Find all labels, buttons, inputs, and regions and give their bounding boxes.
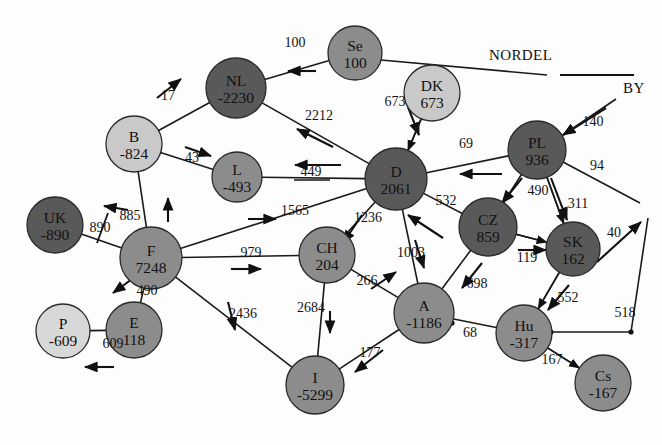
edge-pl-sk-value-label: 311 — [568, 196, 588, 211]
node-se-value: 100 — [343, 54, 367, 71]
edge-cz-sk-value-label: 119 — [517, 250, 537, 265]
node-a-label: A — [418, 297, 430, 314]
edge-pl-east-value-label: 94 — [590, 158, 604, 173]
edge-l-d-value-label: 449 — [301, 164, 322, 179]
edge-f-ch-value-label: 979 — [241, 245, 262, 260]
edge-a-hu-value-label: 68 — [463, 325, 477, 340]
node-a-value: -1186 — [406, 314, 442, 331]
node-d[interactable]: D2061 — [365, 148, 427, 210]
nodes-layer: Se100NL-2230DK673B-824PL936L-493D2061UK-… — [27, 26, 631, 414]
node-uk-value: -890 — [41, 226, 70, 243]
edge-se-nl-value-label: 100 — [285, 35, 306, 50]
node-cz-value: 859 — [476, 228, 500, 245]
node-l-value: -493 — [223, 178, 252, 195]
node-d-label: D — [390, 163, 401, 180]
edge-a-i-value-label: 177 — [360, 345, 381, 360]
edge-d-ch-value-label: 1236 — [354, 210, 382, 225]
edge-b-l-value-label: 43 — [185, 150, 199, 165]
node-nl[interactable]: NL-2230 — [206, 58, 266, 118]
by-label: BY — [623, 80, 645, 96]
edge-ch-a-value-label: 266 — [357, 273, 378, 288]
node-b-value: -824 — [120, 145, 149, 162]
diagram-canvas: Se100NL-2230DK673B-824PL936L-493D2061UK-… — [0, 0, 662, 445]
node-ch-value: 204 — [315, 256, 339, 273]
node-cs-value: -167 — [589, 384, 618, 401]
edge-f-e-value-label: 490 — [137, 283, 158, 298]
node-d-value: 2061 — [381, 180, 412, 197]
node-p-label: P — [59, 315, 68, 332]
edge-pl-cz-direction-arrow — [502, 178, 522, 203]
node-pl[interactable]: PL936 — [508, 121, 566, 179]
edge-pl-d — [425, 156, 509, 173]
edge-dk-d-value-label: 673 — [385, 94, 406, 109]
east-bracket-junction-dot — [628, 329, 633, 334]
edge-sk-east-value-label: 40 — [607, 225, 621, 240]
node-p-value: -609 — [49, 332, 78, 349]
node-cs-label: Cs — [595, 367, 611, 384]
node-sk[interactable]: SK162 — [546, 222, 600, 276]
node-pl-value: 936 — [525, 151, 549, 168]
node-e-value: 118 — [123, 331, 146, 348]
edge-d-f-value-label: 1565 — [281, 203, 309, 218]
network-graph: Se100NL-2230DK673B-824PL936L-493D2061UK-… — [0, 0, 662, 445]
node-nl-value: -2230 — [218, 89, 254, 106]
edge-sk-hu-value-label: 552 — [558, 290, 579, 305]
node-se[interactable]: Se100 — [328, 26, 382, 80]
node-hu-label: Hu — [515, 317, 534, 334]
edge-p-e-value-label: 609 — [103, 336, 124, 351]
edge-d-a-value-label: 1003 — [397, 245, 425, 260]
node-ch-label: CH — [316, 239, 338, 256]
node-ch[interactable]: CH204 — [299, 227, 355, 283]
node-a[interactable]: A-1186 — [394, 283, 454, 343]
node-cz-label: CZ — [478, 211, 498, 228]
node-i-label: I — [312, 369, 317, 386]
edge-ch-i-value-label: 2684 — [297, 300, 325, 315]
node-e-label: E — [129, 314, 138, 331]
node-l[interactable]: L-493 — [212, 152, 262, 202]
node-p[interactable]: P-609 — [36, 304, 90, 358]
node-i-value: -5299 — [297, 386, 333, 403]
edge-uk-f — [81, 234, 123, 248]
node-cs[interactable]: Cs-167 — [575, 355, 631, 411]
node-i[interactable]: I-5299 — [286, 356, 344, 414]
edge-ch-i — [318, 282, 325, 357]
node-se-label: Se — [347, 37, 363, 54]
node-f[interactable]: F7248 — [120, 227, 182, 289]
edge-f-i-value-label: 2436 — [229, 306, 257, 321]
node-sk-value: 162 — [561, 250, 584, 267]
node-nl-label: NL — [226, 72, 247, 89]
edge-pl-d-value-label: 69 — [459, 136, 473, 151]
edge-d-cz-value-label: 532 — [436, 193, 457, 208]
node-cz[interactable]: CZ859 — [459, 198, 517, 256]
node-dk[interactable]: DK673 — [404, 65, 460, 121]
node-dk-label: DK — [421, 77, 444, 94]
edge-hu-cs-value-label: 167 — [542, 352, 563, 367]
edge-pl-by-value-label: 140 — [583, 114, 604, 129]
node-uk-label: UK — [44, 209, 67, 226]
edge-nl-b — [158, 102, 211, 131]
node-hu-value: -317 — [510, 334, 539, 351]
edge-uk-f-value-label: 890 — [90, 220, 111, 235]
node-f-label: F — [147, 242, 156, 259]
edge-nl-d-direction-arrow — [297, 129, 333, 147]
node-b[interactable]: B-824 — [106, 116, 162, 172]
edge-pl-sk-direction-arrow — [551, 178, 567, 220]
edge-f-e-direction-arrow — [113, 279, 132, 293]
node-sk-label: SK — [563, 233, 584, 250]
edge-hu-east-value-label: 518 — [615, 305, 636, 320]
edge-pl-sk-head — [547, 176, 565, 224]
node-dk-value: 673 — [420, 94, 444, 111]
nordel-label: NORDEL — [489, 47, 552, 63]
node-f-value: 7248 — [136, 259, 167, 276]
edge-nl-b-value-label: 17 — [161, 88, 175, 103]
node-l-label: L — [232, 161, 241, 178]
edge-d-cz-direction-arrow — [408, 215, 443, 238]
node-b-label: B — [129, 128, 139, 145]
node-uk[interactable]: UK-890 — [27, 197, 83, 253]
edge-cz-sk-head — [515, 234, 548, 242]
edge-labels-layer: 1001722126734388544914069944903118901565… — [90, 35, 636, 367]
node-pl-label: PL — [528, 134, 546, 151]
edge-cz-a-value-label: 698 — [467, 276, 488, 291]
edge-nl-d-value-label: 2212 — [305, 108, 333, 123]
edge-pl-cz-value-label: 490 — [528, 183, 549, 198]
